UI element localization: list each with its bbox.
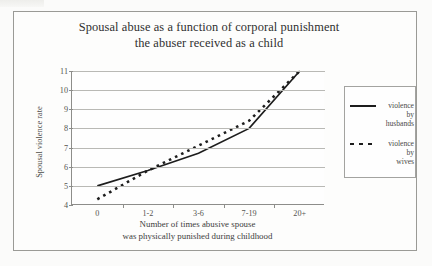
y-tick-mark bbox=[69, 128, 73, 129]
legend-label-husbands: violence by husbands bbox=[377, 101, 414, 129]
y-tick-mark bbox=[69, 167, 73, 168]
chart-frame: Spousal abuse as a function of corporal … bbox=[13, 11, 417, 251]
x-tick-label: 20+ bbox=[293, 209, 306, 218]
plot-area: 111098765401-23-67-1920+ bbox=[71, 71, 324, 205]
legend-label-wives-line-2: by bbox=[377, 148, 414, 157]
chart-title-line-1: Spousal abuse as a function of corporal … bbox=[79, 20, 340, 34]
legend-label-husbands-line-1: violence bbox=[377, 101, 414, 110]
plot-wrapper: Spousal violence rate 111098765401-23-67… bbox=[58, 71, 324, 213]
y-axis-title: Spousal violence rate bbox=[35, 106, 44, 178]
y-tick-mark bbox=[69, 71, 73, 72]
x-axis-title-line-2: was physically punished during childhood bbox=[71, 231, 324, 243]
y-tick-label: 10 bbox=[60, 86, 68, 95]
y-tick-label: 5 bbox=[64, 181, 68, 190]
legend: violence by husbands violence by wives bbox=[344, 86, 416, 178]
y-tick-label: 4 bbox=[64, 201, 68, 210]
x-tick-mark bbox=[274, 204, 275, 208]
chart-title: Spousal abuse as a function of corporal … bbox=[44, 20, 374, 51]
x-axis-title-line-1: Number of times abusive spouse bbox=[140, 219, 256, 229]
legend-label-husbands-line-2: by bbox=[377, 110, 414, 119]
y-tick-mark bbox=[69, 90, 73, 91]
x-tick-label: 1-2 bbox=[142, 209, 153, 218]
x-tick-label: 0 bbox=[95, 209, 99, 218]
x-tick-label: 7-19 bbox=[242, 209, 257, 218]
chart-title-line-2: the abuser received as a child bbox=[44, 36, 374, 52]
legend-label-wives-line-1: violence bbox=[377, 139, 414, 148]
gridline bbox=[72, 148, 325, 149]
y-tick-label: 9 bbox=[64, 105, 68, 114]
y-tick-mark bbox=[69, 205, 73, 206]
legend-label-husbands-line-3: husbands bbox=[377, 119, 414, 128]
x-tick-mark bbox=[224, 204, 225, 208]
legend-key-dotted-line-icon bbox=[350, 143, 376, 146]
y-tick-mark bbox=[69, 186, 73, 187]
y-tick-label: 11 bbox=[60, 67, 68, 76]
legend-label-wives-line-3: wives bbox=[377, 157, 414, 166]
y-tick-label: 8 bbox=[64, 124, 68, 133]
gridline bbox=[72, 90, 325, 91]
gridline bbox=[72, 128, 325, 129]
x-tick-label: 3-6 bbox=[193, 209, 204, 218]
gridline bbox=[72, 186, 325, 187]
x-axis-title: Number of times abusive spouse was physi… bbox=[71, 219, 324, 242]
x-tick-mark bbox=[173, 204, 174, 208]
legend-key-solid-line-icon bbox=[350, 105, 376, 107]
y-tick-mark bbox=[69, 148, 73, 149]
legend-label-wives: violence by wives bbox=[377, 139, 414, 167]
scan-artifact bbox=[0, 0, 44, 7]
gridline bbox=[72, 71, 325, 72]
y-tick-label: 6 bbox=[64, 162, 68, 171]
x-tick-mark bbox=[123, 204, 124, 208]
gridline bbox=[72, 167, 325, 168]
y-tick-mark bbox=[69, 109, 73, 110]
y-tick-label: 7 bbox=[64, 143, 68, 152]
gridline bbox=[72, 109, 325, 110]
